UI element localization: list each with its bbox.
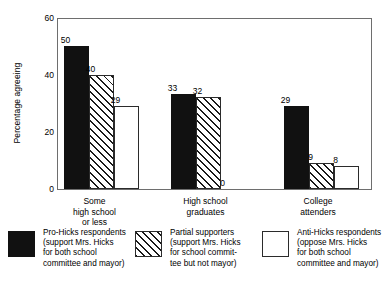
bar-value-group3-anti-hicks: 8 bbox=[323, 156, 348, 165]
bar-group2-pro-hicks bbox=[171, 94, 196, 189]
bar-value-group3-partial: 9 bbox=[298, 153, 323, 162]
y-tick-label-0: 0 bbox=[24, 185, 54, 193]
legend-label-pro-hicks: Pro-Hicks respondents (support Mrs. Hick… bbox=[43, 228, 126, 269]
bar-group1-anti-hicks bbox=[114, 106, 139, 189]
y-tick-label-40: 40 bbox=[24, 71, 54, 79]
bar-group3-anti-hicks bbox=[334, 166, 359, 189]
bar-group3-pro-hicks bbox=[284, 106, 309, 189]
bar-group3-partial bbox=[309, 163, 334, 189]
bar-value-group1-pro-hicks: 50 bbox=[53, 36, 78, 45]
legend-item-pro-hicks: Pro-Hicks respondents (support Mrs. Hick… bbox=[8, 228, 128, 269]
legend-item-partial-supporters: Partial supporters (support Mrs. Hicks f… bbox=[135, 228, 255, 269]
legend-swatch-white-outline-icon bbox=[262, 231, 289, 257]
bar-value-group2-partial: 32 bbox=[185, 87, 210, 96]
legend-label-partial-supporters: Partial supporters (support Mrs. Hicks f… bbox=[170, 228, 241, 269]
legend-swatch-diagonal-hatch-icon bbox=[135, 231, 162, 257]
bar-chart: Percentage agreeing 60 40 20 0 50 40 29 … bbox=[0, 0, 381, 225]
bar-group2-partial bbox=[196, 97, 221, 189]
bar-group1-partial bbox=[89, 75, 114, 189]
bar-value-group1-anti-hicks: 29 bbox=[103, 96, 128, 105]
chart-legend: Pro-Hicks respondents (support Mrs. Hick… bbox=[0, 228, 381, 281]
bar-value-group2-pro-hicks: 33 bbox=[160, 84, 185, 93]
legend-swatch-solid-black-icon bbox=[8, 231, 35, 257]
x-axis-label-group2: High school graduates bbox=[168, 196, 243, 217]
bar-value-group1-partial: 40 bbox=[78, 65, 103, 74]
bar-value-group2-anti-hicks: 0 bbox=[210, 179, 235, 188]
x-axis-label-group1: Some high school or less bbox=[58, 196, 131, 228]
y-axis-title: Percentage agreeing bbox=[12, 28, 22, 178]
legend-label-anti-hicks: Anti-Hicks respondents (oppose Mrs. Hick… bbox=[297, 228, 381, 269]
bar-value-group3-pro-hicks: 29 bbox=[273, 96, 298, 105]
x-axis-label-group3: College attenders bbox=[282, 196, 354, 217]
legend-item-anti-hicks: Anti-Hicks respondents (oppose Mrs. Hick… bbox=[262, 228, 382, 269]
y-tick-label-20: 20 bbox=[24, 128, 54, 136]
y-tick-label-60: 60 bbox=[24, 14, 54, 22]
